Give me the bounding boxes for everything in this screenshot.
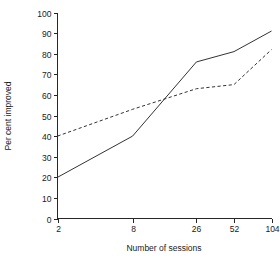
x-tick-label-group: 282652104 [56,224,280,234]
y-tick-label: 100 [37,9,51,19]
y-axis: 1009080706050403020100 [37,9,57,225]
y-tick-label: 20 [42,173,52,183]
y-tick-label-group: 1009080706050403020100 [37,9,51,225]
y-tick-label: 30 [42,153,52,163]
y-tick-label: 0 [47,215,52,225]
series-solid [58,31,272,177]
x-axis-title: Number of sessions [126,243,201,253]
y-tick-label: 10 [42,194,52,204]
x-tick-label: 8 [131,224,136,234]
y-tick-label: 70 [42,70,52,80]
x-tick-group [59,219,273,223]
x-tick-label: 26 [192,224,202,234]
y-tick-label: 80 [42,50,52,60]
series-dashed [58,50,272,137]
plot-area: 1009080706050403020100 282652104 Number … [0,0,280,258]
x-axis: 282652104 [56,219,280,234]
x-tick-label: 104 [265,224,279,234]
series-group [58,31,272,177]
y-tick-group [54,14,58,220]
y-tick-label: 50 [42,112,52,122]
y-tick-label: 60 [42,91,52,101]
y-axis-title: Per cent improved [3,81,13,150]
line-chart: 1009080706050403020100 282652104 Number … [0,0,280,258]
y-tick-label: 90 [42,29,52,39]
y-tick-label: 40 [42,132,52,142]
x-tick-label: 52 [230,224,240,234]
x-tick-label: 2 [56,224,61,234]
